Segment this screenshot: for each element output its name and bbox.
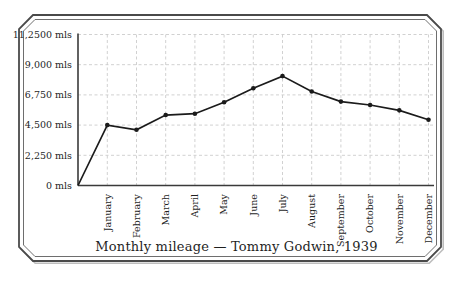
chart-title: Monthly mileage — Tommy Godwin, 1939	[0, 239, 459, 254]
x-tick-label-july: July	[277, 193, 288, 213]
x-tick-label-may: May	[218, 193, 229, 214]
x-tick-label-august: August	[306, 194, 317, 229]
y-tick-label: 6,750 mls	[25, 89, 72, 100]
data-point-march	[163, 113, 168, 118]
data-point-december	[426, 117, 431, 122]
data-point-october	[368, 103, 373, 108]
data-point-february	[134, 127, 139, 132]
x-tick-label-december: December	[423, 194, 434, 244]
x-tick-label-april: April	[189, 194, 200, 219]
x-tick-label-january: January	[102, 193, 113, 232]
data-point-july	[280, 74, 285, 79]
y-tick-label: 9,000 mls	[25, 59, 72, 70]
screenshot-root: 0 mls2,250 mls4,500 mls6,750 mls9,000 ml…	[0, 0, 459, 284]
x-tick-label-june: June	[248, 194, 259, 217]
data-point-september	[339, 99, 344, 104]
y-tick-label: 4,500 mls	[25, 119, 72, 130]
y-tick-label: 0 mls	[46, 180, 72, 191]
y-tick-label: 11,2500 mls	[13, 29, 72, 40]
data-point-april	[193, 111, 198, 116]
x-tick-label-october: October	[364, 194, 375, 233]
x-tick-label-march: March	[160, 194, 171, 225]
x-tick-label-november: November	[394, 194, 405, 245]
data-point-june	[251, 86, 256, 91]
x-tick-label-february: February	[131, 193, 142, 238]
data-point-november	[397, 108, 402, 113]
data-point-august	[309, 89, 314, 94]
data-point-january	[105, 123, 110, 128]
data-point-may	[222, 100, 227, 105]
y-tick-label: 2,250 mls	[25, 150, 72, 161]
